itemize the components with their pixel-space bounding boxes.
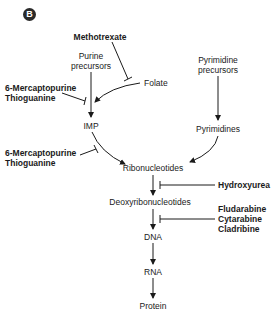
panel-label-badge: B [23, 8, 36, 21]
mercaptopurine-label-1: 6-Mercaptopurine Thioguanine [5, 83, 76, 103]
nucleoside-analogs-label: Fludarabine Cytarabine Cladribine [218, 204, 266, 234]
purine-precursors-label: Purine precursors [71, 51, 111, 71]
methotrexate-inhibit-line [112, 42, 128, 79]
deoxyribonucleotides-label: Deoxyribonucleotides [109, 197, 190, 207]
protein-label: Protein [140, 301, 167, 311]
arrow-folate-to-imp [95, 83, 140, 102]
methotrexate-label: Methotrexate [74, 32, 127, 42]
hydroxyurea-label: Hydroxyurea [218, 180, 270, 190]
mercaptopurine-label-2: 6-Mercaptopurine Thioguanine [5, 148, 76, 168]
ribonucleotides-label: Ribonucleotides [123, 163, 183, 173]
imp-label: IMP [83, 121, 98, 131]
mercaptopurine-inhibit-line-2 [80, 149, 96, 155]
folate-label: Folate [144, 78, 168, 88]
pyrimidine-precursors-label: Pyrimidine precursors [198, 55, 238, 75]
arrow-pyrimidines-to-ribonucleotides [190, 136, 218, 162]
dna-label: DNA [144, 232, 162, 242]
arrow-imp-to-ribonucleotides [92, 132, 125, 164]
rna-label: RNA [144, 267, 162, 277]
pyrimidines-label: Pyrimidines [196, 124, 240, 134]
